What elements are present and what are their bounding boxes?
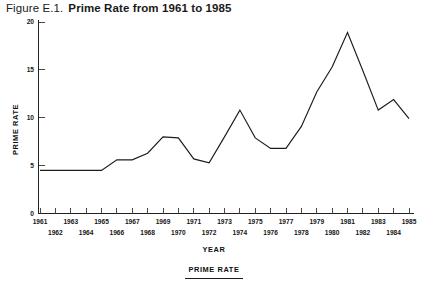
x-tick-label: 1983 [371, 218, 386, 225]
x-tick-label: 1962 [48, 229, 63, 236]
series-line-prime-rate [40, 33, 409, 171]
x-tick-label: 1984 [386, 229, 401, 236]
y-tick-label: 0 [30, 210, 34, 217]
x-tick-label: 1966 [110, 229, 125, 236]
x-tick-label: 1970 [171, 229, 186, 236]
x-tick-label: 1968 [140, 229, 155, 236]
x-tick-label: 1964 [79, 229, 94, 236]
x-tick-group: 1961196219631964196519661967196819691970… [33, 208, 417, 237]
x-tick-label: 1979 [309, 218, 324, 225]
x-tick-label: 1985 [402, 218, 417, 225]
x-tick-label: 1978 [294, 229, 309, 236]
x-tick-label: 1975 [248, 218, 263, 225]
y-tick-label: 5 [30, 162, 34, 169]
x-tick-label: 1977 [279, 218, 294, 225]
y-tick-label: 15 [27, 66, 35, 73]
x-tick-label: 1969 [156, 218, 171, 225]
legend: PRIME RATE [185, 265, 243, 279]
x-tick-label: 1967 [125, 218, 140, 225]
x-axis-group: 1961196219631964196519661967196819691970… [33, 208, 417, 255]
x-tick-label: 1980 [325, 229, 340, 236]
x-tick-label: 1981 [340, 218, 355, 225]
x-tick-label: 1972 [202, 229, 217, 236]
line-chart: 05101520 PRIME RATE 19611962196319641965… [0, 0, 428, 285]
figure-container: Figure E.1.Prime Rate from 1961 to 1985 … [0, 0, 428, 285]
legend-label-prime-rate: PRIME RATE [188, 265, 239, 274]
x-tick-label: 1971 [186, 218, 201, 225]
x-tick-label: 1965 [94, 218, 109, 225]
y-axis-label: PRIME RATE [11, 104, 20, 155]
y-tick-label: 20 [27, 18, 35, 25]
x-axis-label: YEAR [203, 245, 226, 254]
series-group [40, 33, 409, 171]
y-axis-group: 05101520 PRIME RATE [11, 18, 45, 217]
y-tick-label: 10 [27, 114, 35, 121]
x-tick-label: 1973 [217, 218, 232, 225]
x-tick-label: 1974 [233, 229, 248, 236]
x-tick-label: 1976 [263, 229, 278, 236]
x-tick-label: 1961 [33, 218, 48, 225]
x-tick-label: 1982 [356, 229, 371, 236]
x-tick-label: 1963 [63, 218, 78, 225]
y-tick-group: 05101520 [27, 18, 45, 217]
